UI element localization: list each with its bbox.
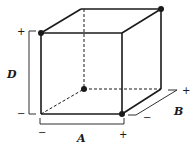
edge-top-left-depth [41, 9, 81, 33]
d-high-sign: + [17, 26, 25, 37]
vertex-dot-back-bottom-left [81, 86, 87, 92]
cube-diagram: + − D − + A − + B [0, 0, 194, 151]
edge-bottom-right-depth [122, 89, 161, 114]
cube-hidden-edges [41, 9, 161, 114]
d-low-sign: − [17, 108, 25, 119]
edge-top-right-depth [122, 9, 161, 33]
vertex-dot-back-top-right [158, 6, 164, 12]
cube-visible-edges [41, 9, 161, 114]
a-high-sign: + [119, 129, 127, 140]
b-label: B [173, 105, 183, 118]
a-low-sign: − [38, 127, 46, 138]
d-bracket [29, 31, 36, 114]
a-bracket [40, 118, 124, 124]
b-high-sign: + [182, 85, 190, 96]
a-label: A [76, 132, 86, 145]
vertex-dot-front-bottom-right [119, 111, 125, 117]
edge-bottom-left-depth-hidden [41, 89, 84, 114]
d-label: D [6, 68, 17, 81]
b-low-sign: − [143, 112, 151, 123]
vertex-dot-front-top-left [38, 30, 44, 36]
